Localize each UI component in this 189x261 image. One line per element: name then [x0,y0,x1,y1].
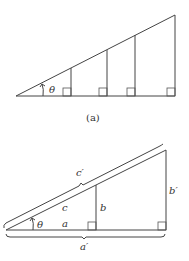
figure-a: θ (a) [16,15,175,123]
label-a: a [62,218,68,229]
label-c-prime: c′ [76,167,85,178]
right-angle-marker-3 [127,88,135,96]
right-angle-marker-small [88,222,96,230]
label-c: c [62,202,68,213]
theta-label-b: θ [37,219,43,230]
right-angle-marker-2 [99,88,107,96]
right-angle-marker-4 [167,88,175,96]
angle-arc-a [42,84,43,96]
hypotenuse-line-b [6,150,166,230]
hypotenuse-brace [4,144,163,228]
caption-a: (a) [86,112,100,123]
theta-label-a: θ [49,84,55,95]
figure-b: θ c b a c′ b′ a′ [4,144,179,252]
hypotenuse-line-a [16,15,175,96]
base-brace [6,234,165,239]
similar-triangles-figure: θ (a) θ c b a c′ b′ a′ [0,0,189,261]
angle-arc-b [32,218,33,230]
right-angle-marker-1 [63,88,71,96]
label-a-prime: a′ [80,241,89,252]
label-b: b [100,202,106,213]
right-angle-marker-large [158,222,166,230]
label-b-prime: b′ [169,185,178,196]
